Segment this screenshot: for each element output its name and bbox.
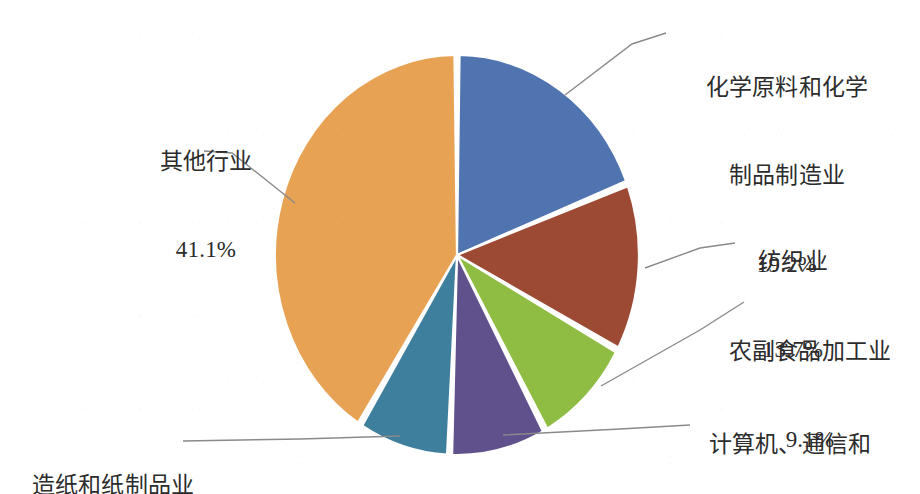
pie-slices-group	[275, 55, 639, 455]
pie-label-chemical-line1: 化学原料和化学	[662, 73, 912, 102]
leader-line-chemical	[565, 33, 666, 95]
pie-label-textile-line1: 纺织业	[688, 247, 898, 276]
pie-label-chemical-line2: 制品制造业	[662, 161, 912, 190]
pie-label-other-percent: 41.1%	[108, 235, 304, 264]
pie-label-other-industries: 其他行业 41.1%	[108, 88, 304, 324]
pie-label-computer-line1: 计算机、通信和	[666, 430, 914, 459]
pie-label-paper-products: 造纸和纸制品业 8.3%	[2, 412, 224, 494]
pie-label-computer-communication-electronics: 计算机、通信和 其他电子设备制 造业 8.7%	[666, 371, 914, 494]
pie-chart-figure: 化学原料和化学 制品制造业 19.2% 纺织业 13.7% 农副食品加工业 9.…	[0, 0, 920, 494]
pie-label-other-line1: 其他行业	[108, 147, 304, 176]
pie-label-agrifood-line1: 农副食品加工业	[700, 337, 920, 366]
pie-label-paper-line1: 造纸和纸制品业	[2, 471, 224, 494]
